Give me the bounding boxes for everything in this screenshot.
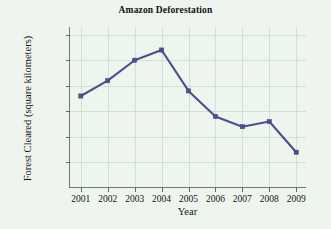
chart-figure: Amazon Deforestation Forest Cleared (squ… [0, 0, 331, 229]
data-point-marker [240, 125, 244, 129]
x-axis-tick [215, 188, 216, 192]
x-axis-title: Year [69, 206, 306, 217]
x-axis-tick-label: 2009 [276, 194, 316, 204]
x-axis-tick [296, 188, 297, 192]
x-axis-tick [162, 188, 163, 192]
x-axis-tick [135, 188, 136, 192]
data-point-marker [213, 114, 217, 118]
data-point-marker [79, 94, 83, 98]
x-axis-tick [269, 188, 270, 192]
x-axis-tick [189, 188, 190, 192]
data-point-marker [133, 58, 137, 62]
data-point-marker [186, 89, 190, 93]
chart-title: Amazon Deforestation [0, 5, 331, 15]
x-axis-tick [242, 188, 243, 192]
y-axis-title: Forest Cleared (square kilometers) [22, 19, 33, 199]
data-point-marker [294, 150, 298, 154]
data-point-marker [267, 119, 271, 123]
data-series-layer [70, 27, 307, 188]
data-line-forest-cleared [81, 50, 296, 152]
x-axis-tick [108, 188, 109, 192]
plot-area: 500010,00015,00020,00025,00030,000200120… [69, 27, 306, 188]
data-point-marker [106, 79, 110, 83]
x-axis-tick [81, 188, 82, 192]
data-point-marker [159, 48, 163, 52]
